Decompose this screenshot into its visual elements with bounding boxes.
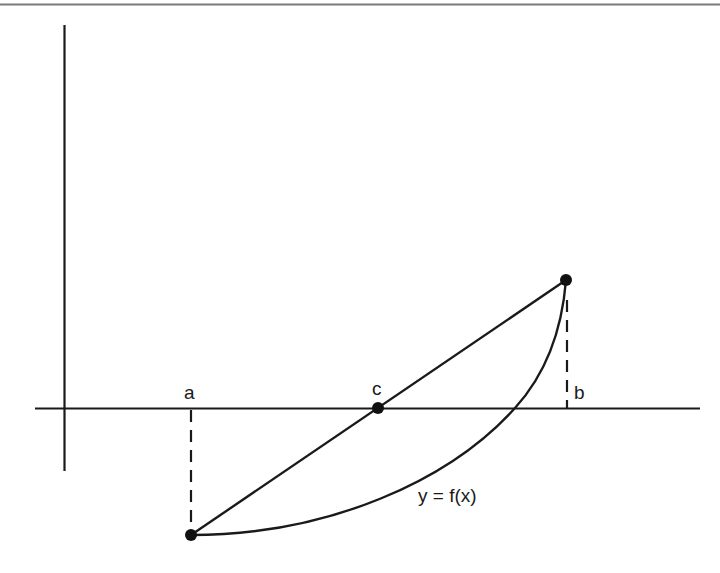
label-c: c	[372, 378, 382, 399]
label-curve: y = f(x)	[418, 485, 477, 506]
point-b-dot	[560, 274, 572, 286]
label-a: a	[184, 382, 195, 403]
point-a-dot	[185, 529, 197, 541]
secant-method-diagram: a c b y = f(x)	[0, 0, 720, 573]
label-b: b	[574, 382, 585, 403]
point-c-dot	[372, 402, 384, 414]
